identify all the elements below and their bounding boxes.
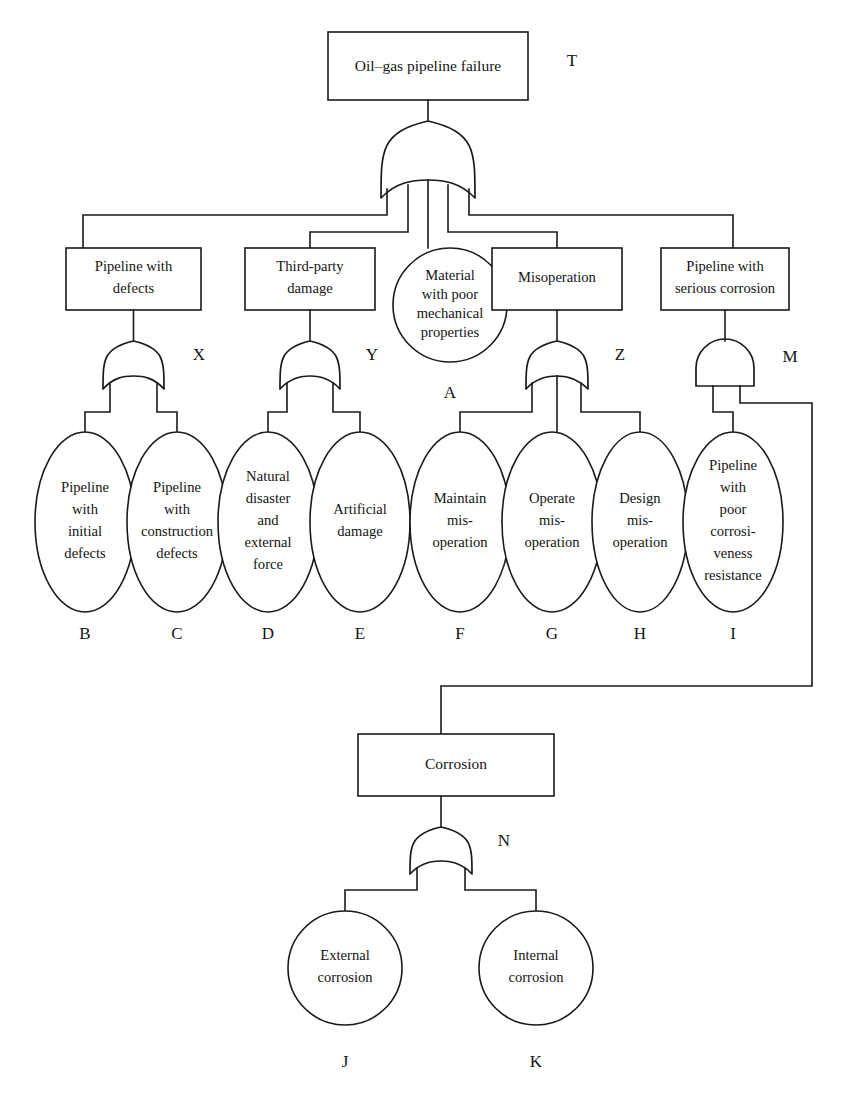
ellipse-D-line4: external	[245, 534, 292, 550]
basic-event-ellipse-C[interactable]	[127, 432, 227, 612]
ellipse-F-line2: mis-	[447, 512, 473, 528]
ellipse-B-line4: defects	[64, 545, 106, 561]
ellipse-B-line2: with	[72, 501, 99, 517]
box-M-line1: Pipeline with	[686, 258, 764, 274]
box-X-line1: Pipeline with	[95, 258, 173, 274]
or-gate-Y[interactable]	[280, 341, 340, 389]
intermediate-event-box-Y[interactable]	[245, 248, 375, 310]
wire-N-to-K	[465, 868, 536, 912]
wire-M-to-I	[713, 386, 733, 432]
circle-A-line2: with poor	[422, 286, 478, 302]
ellipse-F-line1: Maintain	[434, 490, 487, 506]
circle-K-line2: corrosion	[508, 969, 564, 985]
ellipse-C-line3: construction	[141, 523, 214, 539]
wire-T-to-Y	[310, 185, 408, 248]
ellipse-G-line2: mis-	[539, 512, 565, 528]
event-label-C: C	[171, 624, 182, 643]
ellipse-C-line1: Pipeline	[153, 479, 201, 495]
box-Z-line1: Misoperation	[518, 269, 597, 285]
ellipse-B-line3: initial	[68, 523, 102, 539]
ellipse-I-line5: veness	[714, 545, 753, 561]
ellipse-I-line2: with	[720, 479, 747, 495]
wire-T-to-X	[83, 189, 387, 248]
box-Y-line1: Third-party	[276, 258, 344, 274]
event-label-K: K	[530, 1052, 543, 1071]
ellipse-I-line1: Pipeline	[709, 457, 757, 473]
gate-label-N: N	[498, 831, 510, 850]
top-event-text: Oil–gas pipeline failure	[355, 57, 501, 74]
ellipse-I-line3: poor	[720, 501, 747, 517]
event-label-F: F	[455, 624, 464, 643]
event-label-J: J	[342, 1052, 349, 1071]
ellipse-F-line3: operation	[432, 534, 488, 550]
ellipse-H-line2: mis-	[627, 512, 653, 528]
ellipse-H-line1: Design	[619, 490, 661, 506]
ellipse-D-line1: Natural	[246, 468, 290, 484]
and-gate-M[interactable]	[696, 339, 754, 386]
ellipse-I-line6: resistance	[704, 567, 762, 583]
event-label-B: B	[79, 624, 90, 643]
intermediate-event-box-M[interactable]	[661, 248, 789, 310]
ellipse-G-line1: Operate	[529, 490, 575, 506]
event-label-A: A	[444, 383, 457, 402]
box-X-line2: defects	[113, 280, 155, 296]
ellipse-D-line2: disaster	[246, 490, 291, 506]
ellipse-C-line2: with	[164, 501, 191, 517]
ellipse-H-line3: operation	[612, 534, 668, 550]
circle-K-line1: Internal	[513, 947, 558, 963]
ellipse-B-line1: Pipeline	[61, 479, 109, 495]
fault-tree-figure: Oil–gas pipeline failure T Pipeline with…	[0, 0, 842, 1103]
gate-label-T: T	[567, 51, 578, 70]
ellipse-C-line4: defects	[156, 545, 198, 561]
wire-X-to-C	[157, 383, 177, 432]
box-Y-line2: damage	[287, 280, 332, 296]
ellipse-E-line1: Artificial	[333, 501, 387, 517]
wire-X-to-B	[85, 383, 110, 432]
circle-A-line3: mechanical	[417, 305, 483, 321]
event-label-D: D	[262, 624, 274, 643]
event-label-G: G	[546, 624, 558, 643]
or-gate-X[interactable]	[103, 341, 164, 389]
ellipse-I-line4: corrosi-	[710, 523, 756, 539]
box-N-line1: Corrosion	[425, 755, 487, 772]
or-gate-N[interactable]	[410, 827, 472, 874]
gate-label-X: X	[193, 345, 205, 364]
basic-event-circle-K[interactable]	[479, 911, 593, 1025]
ellipse-G-line3: operation	[524, 534, 580, 550]
wire-N-to-J	[345, 868, 417, 912]
wire-T-to-Z	[448, 185, 557, 248]
gate-label-M: M	[782, 347, 797, 366]
fault-tree-canvas: Oil–gas pipeline failure T Pipeline with…	[0, 0, 842, 1103]
wire-Y-to-E	[333, 383, 360, 432]
circle-A-line4: properties	[421, 324, 480, 340]
ellipse-D-line3: and	[257, 512, 279, 528]
basic-event-ellipse-E[interactable]	[310, 432, 410, 612]
ellipse-D-line5: force	[253, 556, 283, 572]
wire-Y-to-D	[268, 383, 287, 432]
basic-event-circle-J[interactable]	[288, 911, 402, 1025]
event-label-E: E	[355, 624, 365, 643]
gate-label-Z: Z	[615, 345, 625, 364]
event-label-I: I	[730, 624, 736, 643]
circle-A-line1: Material	[425, 267, 474, 283]
intermediate-event-box-X[interactable]	[66, 248, 201, 310]
circle-J-line2: corrosion	[317, 969, 373, 985]
wire-T-to-M	[469, 189, 733, 248]
basic-event-ellipse-B[interactable]	[35, 432, 135, 612]
event-label-H: H	[634, 624, 646, 643]
wire-Z-to-H	[581, 383, 640, 432]
box-M-line2: serious corrosion	[675, 280, 776, 296]
circle-J-line1: External	[320, 947, 369, 963]
ellipse-E-line2: damage	[337, 523, 382, 539]
wire-Z-to-F	[460, 383, 532, 432]
gate-label-Y: Y	[366, 345, 378, 364]
